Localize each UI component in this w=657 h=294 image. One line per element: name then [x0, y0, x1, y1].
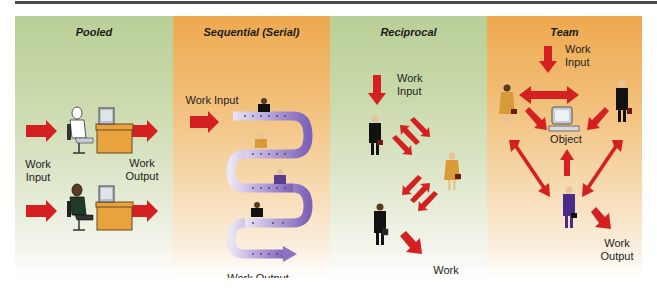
worker-icon	[255, 133, 267, 148]
worker-icon	[258, 98, 270, 112]
work-output-label-1: Work	[129, 157, 155, 169]
object-label: Object	[550, 133, 582, 145]
input-arrow-icon	[539, 46, 557, 73]
output-arrow-icon	[400, 231, 422, 254]
work-input-label-1: Work	[565, 43, 591, 55]
businesswoman-icon	[499, 85, 517, 125]
arrow-to-object-icon	[525, 107, 547, 130]
arrow-to-object-icon	[587, 107, 609, 130]
work-input-label-1: Work	[25, 158, 51, 170]
work-output-label-1: Work	[433, 264, 459, 276]
panel-reciprocal: Reciprocal Work Input	[330, 16, 487, 278]
work-output-label-1: Work	[604, 237, 630, 249]
output-arrow-icon	[591, 207, 611, 229]
work-input-label-2: Input	[397, 85, 421, 97]
reciprocal-arrows-icon	[392, 117, 430, 155]
input-arrow-icon	[26, 120, 57, 142]
work-input-label-2: Input	[26, 171, 50, 183]
work-input-label-2: Input	[565, 56, 589, 68]
panel-team: Team Work Input Object	[487, 16, 642, 278]
businesswoman-icon	[444, 153, 461, 191]
arrow-to-object-icon	[560, 149, 574, 176]
worker-at-desk-icon	[67, 107, 133, 153]
double-arrow-icon	[582, 140, 623, 197]
work-input-label: Work Input	[186, 94, 239, 106]
worker-icon	[251, 202, 263, 217]
work-output-label: Work Output	[227, 272, 289, 278]
panel-pooled: Pooled Work Input Work Output	[15, 16, 173, 278]
work-output-label-2: Output	[429, 277, 462, 278]
work-output-label-2: Output	[600, 250, 633, 262]
conveyor-belt-icon	[231, 115, 308, 262]
reciprocal-arrows-icon	[402, 175, 438, 211]
double-arrow-icon	[509, 140, 550, 197]
input-arrow-icon	[190, 111, 219, 133]
computer-icon	[549, 107, 579, 131]
double-arrow-icon	[519, 86, 579, 104]
worker-at-desk-icon	[67, 184, 133, 230]
work-output-label-2: Output	[125, 170, 158, 182]
businessman-icon	[369, 116, 383, 156]
businessman-icon	[616, 81, 632, 123]
businessman-icon	[374, 204, 388, 246]
input-arrow-icon	[368, 75, 386, 105]
panel-sequential: Sequential (Serial) Work Input	[173, 16, 330, 278]
businessman-icon	[563, 187, 577, 229]
top-rule	[15, 1, 657, 4]
work-input-label-1: Work	[397, 72, 423, 84]
worker-icon	[274, 169, 286, 184]
input-arrow-icon	[26, 200, 57, 222]
